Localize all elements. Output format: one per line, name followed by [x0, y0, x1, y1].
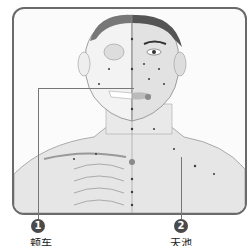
callout-caption-1: 颊车	[30, 238, 52, 246]
acupoint-anatomy-illustration	[14, 9, 245, 213]
callout-marker-2: 2	[174, 219, 188, 233]
callout-marker-1: 1	[31, 219, 45, 233]
illustration-frame	[12, 7, 247, 215]
callout-1-horizontal-line	[38, 88, 134, 89]
callout-caption-2: 天池	[170, 238, 192, 246]
callout-1-vertical-line	[38, 88, 39, 219]
callout-2-vertical-line	[181, 157, 182, 219]
